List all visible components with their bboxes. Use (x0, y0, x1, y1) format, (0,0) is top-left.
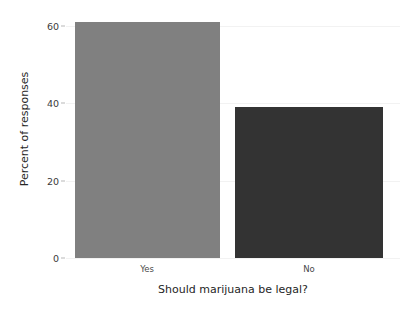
y-tick-label-0: 0 (53, 253, 59, 264)
y-tick-label-60: 60 (47, 20, 59, 31)
x-tick-label-yes: Yes (140, 264, 154, 274)
y-axis-label: Percent of responses (14, 0, 36, 258)
y-tick-mark (61, 180, 65, 181)
y-tick-label-40: 40 (47, 98, 59, 109)
bar-yes[interactable] (75, 22, 220, 258)
y-tick-mark (61, 103, 65, 104)
plot-area: 0 20 40 60 Yes No (66, 18, 400, 258)
y-tick-label-20: 20 (47, 175, 59, 186)
x-tick-label-no: No (303, 264, 315, 274)
bar-no[interactable] (235, 107, 383, 258)
gridline (66, 258, 400, 259)
x-axis-label: Should marijuana be legal? (66, 283, 400, 296)
bar-chart-figure: Percent of responses 0 20 40 60 Yes No S… (0, 0, 417, 311)
y-tick-mark (61, 25, 65, 26)
y-tick-mark (61, 258, 65, 259)
